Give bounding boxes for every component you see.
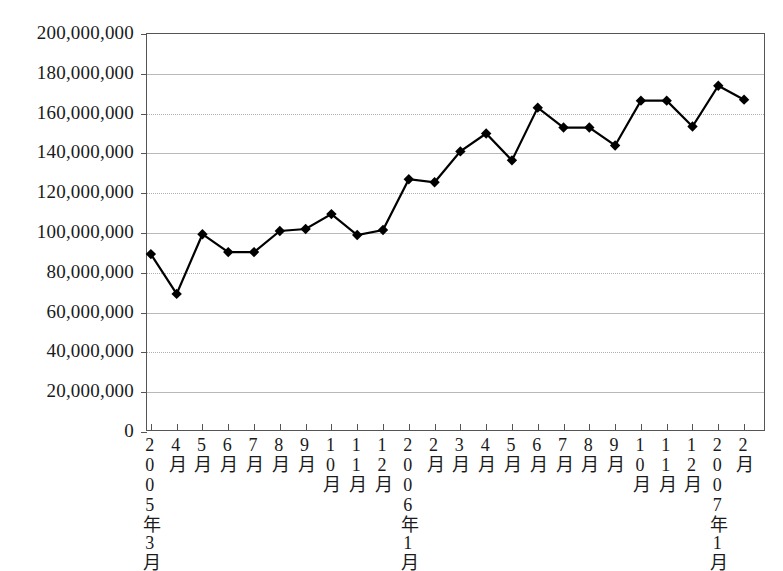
data-point-marker xyxy=(404,174,414,184)
x-tick-label: 6月 xyxy=(528,435,546,473)
x-tick-label: 10月 xyxy=(321,435,339,493)
x-tick-label: 12月 xyxy=(682,435,700,493)
data-point-marker xyxy=(378,225,388,235)
x-tick-label: 10月 xyxy=(631,435,649,493)
y-tick-label: 80,000,000 xyxy=(47,261,135,283)
x-tick-label: 8月 xyxy=(579,435,597,473)
x-tick-label: 2005年3月 xyxy=(141,435,159,571)
x-tick-label: 12月 xyxy=(373,435,391,493)
y-tick-label: 160,000,000 xyxy=(37,102,134,124)
y-tick-label: 180,000,000 xyxy=(37,62,134,84)
plot-area xyxy=(146,33,765,431)
x-tick-label: 2007年1月 xyxy=(708,435,726,571)
data-point-marker xyxy=(713,81,723,91)
x-tick-label: 8月 xyxy=(270,435,288,473)
y-tick-label: 200,000,000 xyxy=(37,22,134,44)
y-tick-label: 20,000,000 xyxy=(47,380,135,402)
x-tick-label: 9月 xyxy=(296,435,314,473)
data-point-marker xyxy=(739,94,749,104)
x-tick-label: 7月 xyxy=(244,435,262,473)
x-tick-label: 4月 xyxy=(476,435,494,473)
x-tick-label: 5月 xyxy=(502,435,520,473)
x-tick-label: 2月 xyxy=(425,435,443,473)
x-tick-label: 6月 xyxy=(218,435,236,473)
y-tick-label: 120,000,000 xyxy=(37,181,134,203)
data-series xyxy=(147,34,766,432)
y-tick-label: 60,000,000 xyxy=(47,301,135,323)
y-tick-label: 100,000,000 xyxy=(37,221,134,243)
x-tick-label: 3月 xyxy=(450,435,468,473)
y-tick-label: 140,000,000 xyxy=(37,141,134,163)
data-point-marker xyxy=(636,95,646,105)
y-tick-label: 40,000,000 xyxy=(47,340,135,362)
x-tick-label: 7月 xyxy=(554,435,572,473)
x-tick-label: 2月 xyxy=(734,435,752,473)
data-point-marker xyxy=(300,224,310,234)
x-axis-labels: 2005年3月4月5月6月7月8月9月10月11月12月2006年1月2月3月4… xyxy=(146,431,765,553)
x-tick-label: 11月 xyxy=(347,435,365,493)
x-tick-label: 9月 xyxy=(605,435,623,473)
series-line xyxy=(151,86,744,294)
y-axis-labels: 200,000,000180,000,000160,000,000140,000… xyxy=(0,0,140,553)
x-tick-label: 2006年1月 xyxy=(399,435,417,571)
x-tick-label: 11月 xyxy=(657,435,675,493)
x-tick-label: 4月 xyxy=(167,435,185,473)
y-tick-label: 0 xyxy=(124,420,134,442)
x-tick-label: 5月 xyxy=(192,435,210,473)
